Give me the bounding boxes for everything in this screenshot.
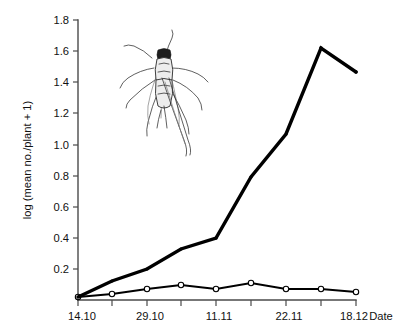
x-tick-label: 22.11: [275, 310, 302, 322]
series-upper-group: [78, 46, 358, 297]
data-point-marker: [213, 286, 218, 291]
x-tick-label: 11.11: [206, 310, 232, 322]
y-tick-label: 1.0: [53, 139, 69, 151]
data-point-marker: [318, 286, 323, 291]
y-tick-label: 1.8: [53, 14, 69, 26]
x-axis-tick-labels: 14.10 29.10 11.11 22.11 18.12: [68, 310, 368, 322]
y-tick-label: 0.4: [53, 232, 69, 244]
y-tick-label: 1.4: [53, 76, 69, 88]
data-point-marker: [353, 289, 358, 294]
line-chart: 1.8 1.6 1.4 1.2 1.0 0.8 0.6 0.4 0.2 14.1…: [0, 0, 413, 333]
y-tick-label: 0.2: [53, 263, 69, 275]
data-point-marker: [354, 70, 358, 74]
data-point-marker: [179, 247, 182, 250]
x-axis-ticks: [78, 300, 356, 306]
y-axis-title: log (mean no./plant + 1): [21, 100, 33, 219]
x-tick-label: 18.12: [340, 310, 368, 322]
chart-figure: 1.8 1.6 1.4 1.2 1.0 0.8 0.6 0.4 0.2 14.1…: [0, 0, 413, 333]
data-point-marker: [178, 282, 183, 287]
data-point-marker: [248, 280, 253, 285]
data-point-marker: [214, 236, 217, 239]
y-tick-label: 1.2: [53, 107, 69, 119]
y-tick-label: 0.6: [53, 201, 69, 213]
x-tick-label: 14.10: [68, 310, 96, 322]
x-tick-label: 29.10: [136, 310, 164, 322]
data-point-marker: [109, 291, 114, 296]
data-point-marker: [110, 279, 113, 282]
y-tick-label: 1.6: [53, 45, 69, 57]
data-point-marker: [319, 46, 323, 50]
series-upper-line: [78, 48, 356, 297]
data-point-marker: [145, 267, 148, 270]
data-point-marker: [144, 286, 149, 291]
data-point-marker: [284, 132, 287, 135]
y-tick-label: 0.8: [53, 170, 69, 182]
y-axis-ticks: [73, 20, 78, 269]
data-point-marker: [249, 175, 252, 178]
y-axis-tick-labels: 1.8 1.6 1.4 1.2 1.0 0.8 0.6 0.4 0.2: [53, 14, 69, 275]
x-axis-title: Date: [369, 310, 393, 322]
data-point-marker: [283, 286, 288, 291]
aphid-illustration-icon: [120, 30, 208, 156]
series-lower-group: [75, 280, 358, 299]
